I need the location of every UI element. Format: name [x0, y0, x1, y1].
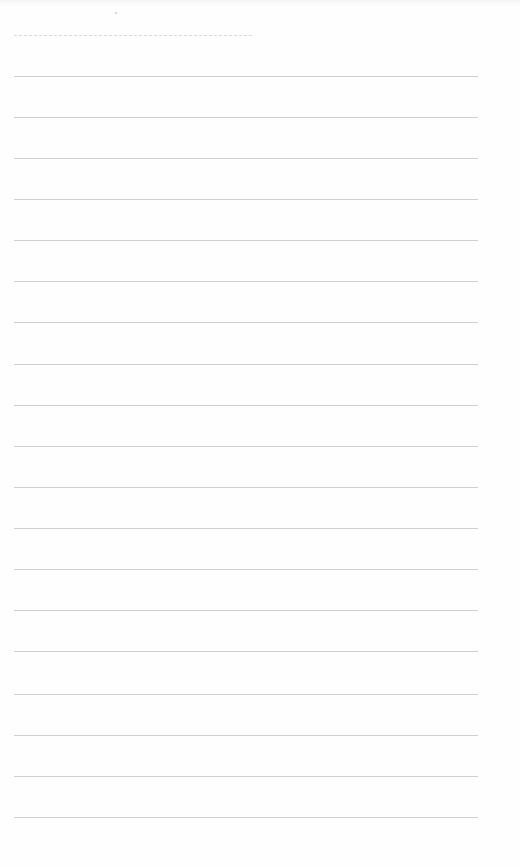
ruled-line [14, 487, 478, 488]
ruled-line [14, 446, 478, 447]
ruled-line [14, 610, 478, 611]
ruled-line [14, 694, 478, 695]
header-dashed-line [14, 35, 252, 36]
ruled-line [14, 322, 478, 323]
scan-edge-shadow [0, 0, 520, 6]
ruled-line [14, 569, 478, 570]
paper-speck [115, 12, 117, 14]
ruled-line [14, 158, 478, 159]
ruled-line [14, 364, 478, 365]
ruled-line [14, 735, 478, 736]
lined-paper-page [0, 0, 520, 867]
ruled-line [14, 240, 478, 241]
ruled-line [14, 817, 478, 818]
ruled-line [14, 651, 478, 652]
ruled-line [14, 405, 478, 406]
ruled-line [14, 117, 478, 118]
ruled-line [14, 281, 478, 282]
ruled-line [14, 76, 478, 77]
ruled-line [14, 528, 478, 529]
ruled-line [14, 199, 478, 200]
ruled-line [14, 776, 478, 777]
